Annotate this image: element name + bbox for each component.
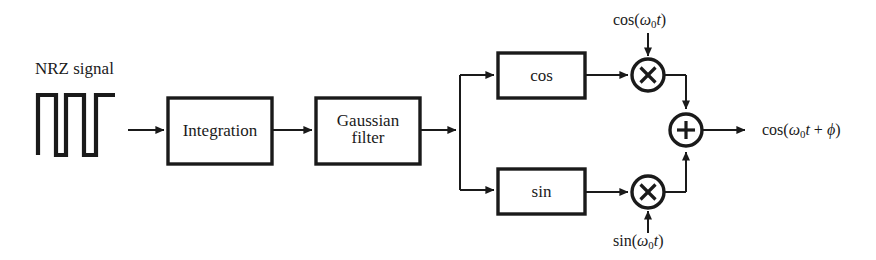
nrz-waveform [38,95,115,155]
output-fn: cos [762,121,783,138]
output-phi: ϕ [827,121,835,138]
link-multiplier-cos-to-adder [664,75,686,109]
block-label-sin: sin [498,183,585,200]
output-close: ) [835,121,840,138]
carrier-sin-omega: ω [637,232,648,249]
carrier-sin-close: ) [658,232,663,249]
gaussian-label-line2: filter [351,128,384,147]
block-label-cos: cos [498,67,585,84]
summing-junction-adder [670,114,702,146]
nrz-signal-label: NRZ signal [35,60,114,77]
carrier-sin-fn: sin [613,232,632,249]
block-label-gaussian-filter: Gaussian filter [316,112,420,146]
output-label: cos(ω0t + ϕ) [762,122,840,140]
carrier-cos-omega: ω [640,11,651,28]
carrier-label-cos: cos(ω0t) [613,12,666,30]
block-label-integration: Integration [168,122,272,139]
diagram-vector-layer [0,0,876,260]
carrier-cos-fn: cos [613,11,634,28]
output-plus: + [810,121,827,138]
carrier-label-sin: sin(ω0t) [613,233,664,251]
signal-split-bus [460,75,494,190]
carrier-cos-close: ) [661,11,666,28]
output-omega: ω [789,121,800,138]
multiplier-cos [632,59,664,91]
block-diagram-canvas: NRZ signal Integration Gaussian filter c… [0,0,876,260]
link-multiplier-sin-to-adder [664,152,686,192]
multiplier-sin [632,176,664,208]
